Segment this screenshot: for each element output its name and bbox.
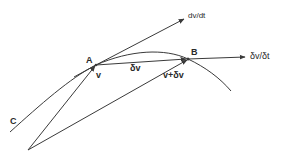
point-b-dot	[187, 58, 190, 61]
label-dv-dt: dv/dt	[188, 12, 205, 20]
label-point-b: B	[191, 48, 198, 57]
velocity-diagram	[0, 0, 290, 158]
label-velocity-v: v	[96, 71, 101, 80]
tangent-extension	[74, 65, 96, 77]
label-velocity-b: v+δv	[163, 71, 184, 80]
label-point-a: A	[86, 56, 93, 65]
vector-v	[28, 66, 95, 150]
vector-dv-dt	[96, 19, 184, 65]
label-delta-v-delta-t: δv/δt	[250, 52, 270, 61]
point-a-dot	[95, 64, 98, 67]
vector-delta-v-over-delta-t	[188, 57, 245, 59]
trajectory-curve-c	[10, 52, 231, 132]
label-delta-v: δv	[130, 64, 140, 73]
label-curve-c: C	[10, 117, 17, 126]
